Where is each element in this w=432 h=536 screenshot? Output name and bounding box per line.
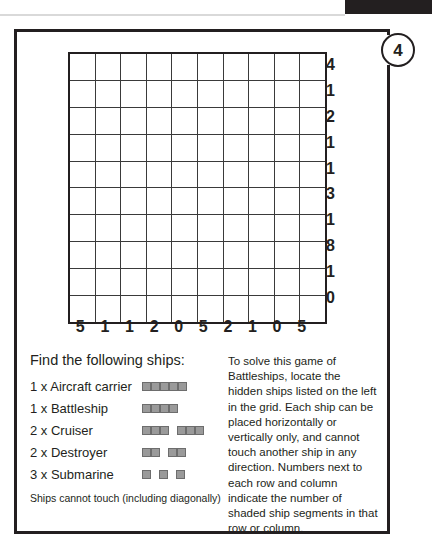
grid-cell[interactable] [69,161,95,188]
grid-cell[interactable] [146,161,172,188]
grid-cell[interactable] [274,80,300,107]
grid-cell[interactable] [172,215,198,242]
grid-cell[interactable] [95,134,121,161]
grid-cell[interactable] [121,53,147,80]
grid-cell[interactable] [197,107,223,134]
grid-cell[interactable] [249,53,275,80]
grid-cell[interactable] [69,269,95,296]
battleships-grid[interactable] [68,52,327,324]
ship-segment-icon [168,448,177,457]
grid-cell[interactable] [121,161,147,188]
grid-cell[interactable] [95,80,121,107]
grid-cell[interactable] [121,134,147,161]
grid-cell[interactable] [197,161,223,188]
grid-cell[interactable] [172,107,198,134]
grid-cell[interactable] [249,269,275,296]
grid-cell[interactable] [121,188,147,215]
grid-cell[interactable] [197,80,223,107]
grid-cell[interactable] [121,269,147,296]
grid-cell[interactable] [69,134,95,161]
grid-cell[interactable] [300,269,326,296]
grid-cell[interactable] [223,269,249,296]
grid-cell[interactable] [121,242,147,269]
grid-cell[interactable] [197,269,223,296]
grid-cell[interactable] [95,269,121,296]
grid-cell[interactable] [223,107,249,134]
grid-cell[interactable] [249,80,275,107]
grid-cell[interactable] [223,80,249,107]
grid-cell[interactable] [121,215,147,242]
grid-cell[interactable] [300,53,326,80]
grid-cell[interactable] [223,161,249,188]
grid-cell[interactable] [95,53,121,80]
grid-cell[interactable] [69,188,95,215]
grid-cell[interactable] [197,242,223,269]
grid-cell[interactable] [274,107,300,134]
grid-cell[interactable] [249,134,275,161]
grid-cell[interactable] [274,215,300,242]
grid-cell[interactable] [69,215,95,242]
grid-cell[interactable] [197,188,223,215]
row-clue: 8 [326,233,352,259]
ship-label: 2 x Destroyer [30,445,142,460]
grid-cell[interactable] [172,161,198,188]
grid-cell[interactable] [95,215,121,242]
grid-cell[interactable] [95,107,121,134]
grid-cell[interactable] [172,242,198,269]
grid-cell[interactable] [223,215,249,242]
grid-cell[interactable] [223,188,249,215]
grid-cell[interactable] [249,188,275,215]
grid-cell[interactable] [69,107,95,134]
ship-label: 1 x Battleship [30,401,142,416]
grid-cell[interactable] [197,215,223,242]
grid-cell[interactable] [146,107,172,134]
grid-cell[interactable] [249,215,275,242]
grid-cell[interactable] [300,161,326,188]
grid-cell[interactable] [146,188,172,215]
grid-cell[interactable] [146,242,172,269]
grid-cell[interactable] [300,80,326,107]
grid-cell[interactable] [274,269,300,296]
grid-row [69,215,326,242]
row-clue: 1 [326,207,352,233]
grid-cell[interactable] [172,269,198,296]
grid-cell[interactable] [146,215,172,242]
grid-cell[interactable] [300,134,326,161]
grid-cell[interactable] [172,53,198,80]
grid-cell[interactable] [172,134,198,161]
ship-legend-row: 2 x Cruiser [30,421,218,440]
grid-cell[interactable] [249,242,275,269]
grid-cell[interactable] [223,242,249,269]
grid-cell[interactable] [121,107,147,134]
grid-cell[interactable] [172,188,198,215]
ship-icon [142,382,187,391]
grid-cell[interactable] [69,80,95,107]
grid-cell[interactable] [300,242,326,269]
grid-cell[interactable] [69,242,95,269]
grid-cell[interactable] [95,161,121,188]
grid-cell[interactable] [146,80,172,107]
grid-cell[interactable] [274,188,300,215]
grid-cell[interactable] [300,188,326,215]
grid-cell[interactable] [249,107,275,134]
grid-cell[interactable] [95,242,121,269]
grid-cell[interactable] [274,242,300,269]
grid-cell[interactable] [95,188,121,215]
grid-cell[interactable] [300,107,326,134]
grid-cell[interactable] [300,215,326,242]
grid-cell[interactable] [121,80,147,107]
grid-cell[interactable] [274,53,300,80]
grid-cell[interactable] [172,80,198,107]
grid-cell[interactable] [249,161,275,188]
ship-segment-icon [151,382,160,391]
grid-cell[interactable] [274,161,300,188]
grid-cell[interactable] [197,53,223,80]
grid-cell[interactable] [223,53,249,80]
grid-cell[interactable] [146,53,172,80]
grid-cell[interactable] [223,134,249,161]
grid-cell[interactable] [146,269,172,296]
grid-cell[interactable] [146,134,172,161]
grid-cell[interactable] [197,134,223,161]
grid-cell[interactable] [274,134,300,161]
grid-cell[interactable] [69,53,95,80]
